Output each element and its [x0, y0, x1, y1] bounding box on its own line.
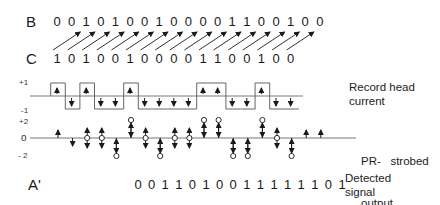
- precoder-arrows: [53, 32, 314, 50]
- record-head-current-waveform: [30, 83, 303, 109]
- timing-diagram: [0, 0, 440, 205]
- pr-strobed-output-samples: [30, 117, 356, 158]
